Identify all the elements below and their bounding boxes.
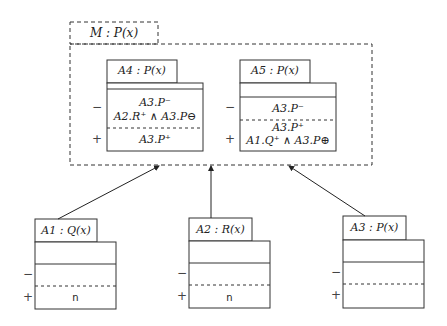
box-a2-plus-1: n [189, 292, 270, 303]
box-a4-minus-2: A2.R⁺ ∧ A3.P⊖ [107, 111, 203, 123]
box-a3-title: A3 : P(x) [343, 222, 406, 234]
box-a2-plus-sign: + [177, 290, 187, 302]
box-a4-plus-sign: + [92, 133, 102, 145]
edge-a3-to-m [289, 166, 365, 216]
box-a5-minus-sign: − [225, 101, 235, 113]
box-a1-plus-1: n [35, 292, 116, 303]
box-a4-minus-sign: − [92, 101, 102, 113]
box-a2-minus-sign: − [177, 267, 187, 279]
box-a1-plus-sign: + [23, 291, 33, 303]
box-a4-minus-1: A3.P⁻ [107, 97, 203, 109]
box-a3-minus-sign: − [331, 266, 341, 278]
diagram-canvas [0, 0, 447, 326]
edge-a1-to-m [58, 166, 159, 219]
box-a1-title: A1 : Q(x) [35, 225, 97, 237]
box-a5-title: A5 : P(x) [240, 65, 310, 77]
box-a5-plus-sign: + [225, 133, 235, 145]
box-a5-minus-1: A3.P⁻ [240, 103, 336, 115]
container-m-label: M : P(x) [70, 27, 158, 39]
box-a5-plus-2: A1.Q⁺ ∧ A3.P⊕ [240, 135, 336, 147]
box-a5-plus-1: A3.P⁺ [240, 122, 336, 134]
box-a3-plus-sign: + [331, 289, 341, 301]
box-a4-title: A4 : P(x) [107, 65, 177, 77]
box-a1-minus-sign: − [23, 268, 33, 280]
box-a2-title: A2 : R(x) [189, 224, 252, 236]
box-a4-plus-1: A3.P⁺ [107, 134, 203, 146]
